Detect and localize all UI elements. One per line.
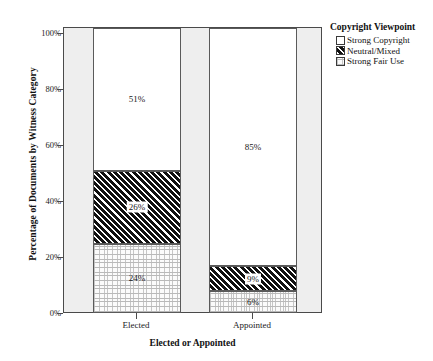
bar-segment-elected-strong-fair-use[interactable]: 24% — [93, 244, 181, 313]
x-tick-mark-elected — [136, 313, 137, 319]
bar-label-elected-strong-copyright: 51% — [129, 94, 146, 104]
legend-swatch-neutral-mixed — [336, 46, 345, 55]
legend-label-strong-copyright: Strong Copyright — [347, 35, 410, 45]
bar-label-appointed-neutral-mixed: 9% — [245, 273, 261, 284]
legend-item-neutral-mixed[interactable]: Neutral/Mixed — [336, 46, 430, 56]
bar-label-appointed-strong-fair-use: 6% — [247, 297, 259, 307]
bar-appointed[interactable]: 85% 9% 6% — [209, 28, 297, 313]
legend-item-strong-fair-use[interactable]: Strong Fair Use — [336, 56, 430, 66]
bar-label-elected-strong-fair-use: 24% — [129, 273, 146, 283]
x-axis-title: Elected or Appointed — [63, 338, 322, 348]
x-tick-label-appointed: Appointed — [192, 320, 312, 330]
chart-canvas: Percentage of Documents by Witness Categ… — [0, 0, 433, 361]
bar-elected[interactable]: 51% 26% 24% — [93, 28, 181, 313]
y-tick-label-0: 0% — [21, 308, 61, 318]
x-tick-label-elected: Elected — [76, 320, 196, 330]
legend-swatch-strong-copyright — [336, 36, 345, 45]
legend-swatch-strong-fair-use — [336, 57, 345, 66]
legend-item-strong-copyright[interactable]: Strong Copyright — [336, 35, 430, 45]
bar-label-appointed-strong-copyright: 85% — [245, 142, 262, 152]
y-tick-label-40: 40% — [21, 196, 61, 206]
bar-segment-elected-strong-copyright[interactable]: 51% — [93, 28, 181, 171]
plot-area: 51% 26% 24% 85% 9% 6% — [63, 27, 322, 313]
bar-label-elected-neutral-mixed: 26% — [127, 202, 148, 213]
legend-label-neutral-mixed: Neutral/Mixed — [347, 46, 400, 56]
y-tick-label-60: 60% — [21, 140, 61, 150]
legend: Copyright Viewpoint Strong Copyright Neu… — [330, 22, 430, 67]
bar-segment-appointed-strong-fair-use[interactable]: 6% — [209, 291, 297, 313]
y-tick-label-100: 100% — [21, 28, 61, 38]
bar-segment-elected-neutral-mixed[interactable]: 26% — [93, 171, 181, 244]
y-tick-label-80: 80% — [21, 84, 61, 94]
bar-segment-appointed-neutral-mixed[interactable]: 9% — [209, 266, 297, 291]
legend-label-strong-fair-use: Strong Fair Use — [347, 56, 404, 66]
y-tick-mark-0 — [57, 313, 63, 314]
y-tick-label-20: 20% — [21, 252, 61, 262]
legend-title: Copyright Viewpoint — [330, 22, 430, 32]
x-tick-mark-appointed — [252, 313, 253, 319]
bar-segment-appointed-strong-copyright[interactable]: 85% — [209, 28, 297, 266]
